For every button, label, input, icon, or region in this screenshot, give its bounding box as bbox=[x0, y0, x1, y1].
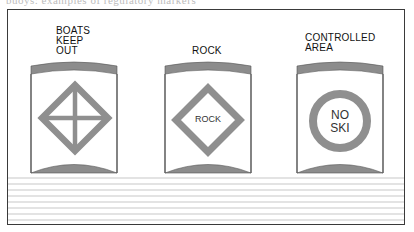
buoy-boats-keep-out bbox=[30, 60, 118, 176]
diamond-cross-icon bbox=[42, 85, 108, 151]
buoy-label-boats-keep-out: BOATS KEEP OUT bbox=[56, 26, 90, 56]
buoy-label-controlled-area: CONTROLLED AREA bbox=[305, 33, 375, 53]
diamond-inner-text-rock: ROCK bbox=[188, 114, 228, 124]
water-lines bbox=[8, 177, 404, 223]
circle-inner-text-no-ski: NO SKI bbox=[320, 109, 360, 135]
cut-off-caption: buoys: examples of regulatory markers bbox=[6, 0, 196, 6]
buoy-label-rock: ROCK bbox=[192, 46, 222, 56]
